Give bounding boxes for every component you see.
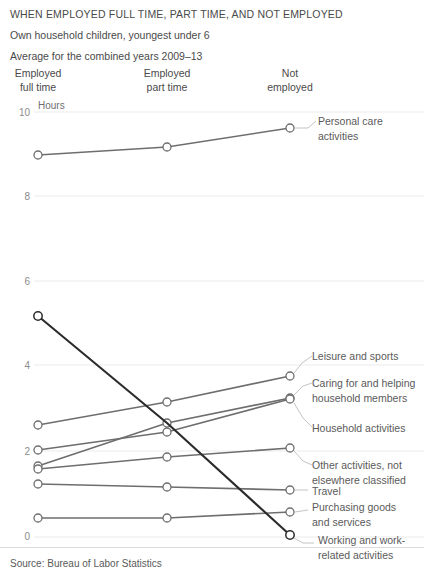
datapoint-marker <box>163 428 171 436</box>
datapoint-marker <box>163 514 171 522</box>
datapoint-marker <box>163 398 171 406</box>
series-line-personal-care <box>34 121 316 159</box>
series-line-leisure-and-sports <box>34 356 312 429</box>
datapoint-marker <box>286 444 294 452</box>
datapoint-marker <box>163 483 171 491</box>
datapoint-marker <box>34 446 42 454</box>
series-label-purchasing-goods-and-services: Purchasing goods and services <box>312 500 416 530</box>
series-line-other-activities <box>34 444 312 473</box>
datapoint-marker <box>163 453 171 461</box>
series-label-leisure-and-sports: Leisure and sports <box>312 349 420 364</box>
series-line-household-activities <box>34 395 312 454</box>
datapoint-marker <box>163 143 171 151</box>
series-line-travel <box>34 480 308 494</box>
series-label-caring-for-household-members: Caring for and helping household members <box>312 376 416 406</box>
datapoint-marker <box>286 486 294 494</box>
datapoint-marker <box>286 395 294 403</box>
datapoint-marker <box>34 312 42 320</box>
series-label-travel: Travel <box>312 484 412 499</box>
source-note: Source: Bureau of Labor Statistics <box>10 558 162 569</box>
series-label-working-and-work-related: Working and work-related activities <box>318 533 422 563</box>
series-label-household-activities: Household activities <box>312 421 422 436</box>
datapoint-marker <box>34 465 42 473</box>
series-line-working-and-work-related <box>34 312 314 543</box>
datapoint-marker <box>286 508 294 516</box>
datapoint-marker <box>34 151 42 159</box>
source-divider <box>0 547 424 548</box>
datapoint-marker <box>34 480 42 488</box>
datapoint-marker <box>34 514 42 522</box>
datapoint-marker <box>34 421 42 429</box>
series-label-personal-care: Personal care activities <box>318 114 418 144</box>
datapoint-marker <box>286 124 294 132</box>
datapoint-marker <box>286 531 294 539</box>
datapoint-marker <box>286 372 294 380</box>
